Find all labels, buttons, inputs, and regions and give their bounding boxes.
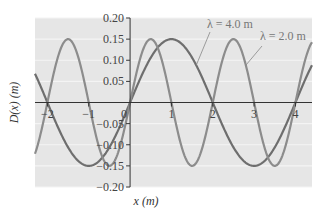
y-axis-title: D(x) (m): [7, 82, 21, 125]
x-tick-label: 3: [251, 107, 257, 121]
annotation-label: λ = 2.0 m: [260, 29, 307, 43]
x-tick-label: −1: [82, 107, 95, 121]
y-tick-label: 0.05: [103, 74, 124, 88]
y-tick-label: 0.20: [103, 11, 124, 25]
chart: 0.200.150.100.05−0.05−0.10−0.15−0.20 −2−…: [0, 0, 322, 215]
y-tick-label: −0.05: [96, 117, 124, 131]
x-tick-label: 1: [168, 107, 174, 121]
x-tick-label: 2: [210, 107, 216, 121]
x-tick-label: −2: [41, 107, 54, 121]
annotation-label: λ = 4.0 m: [207, 17, 254, 31]
x-tick-label: 4: [292, 107, 298, 121]
y-tick-label: −0.15: [96, 159, 124, 173]
x-axis-title: x (m): [133, 194, 159, 208]
x-tick-label: 0: [121, 107, 127, 121]
y-tick-label: −0.20: [96, 180, 124, 194]
y-tick-label: −0.10: [96, 138, 124, 152]
y-tick-label: 0.15: [103, 32, 124, 46]
y-tick-label: 0.10: [103, 53, 124, 67]
